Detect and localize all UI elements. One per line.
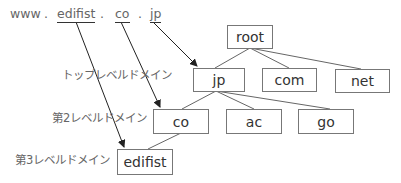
url-part-edifist: edifist <box>57 6 95 23</box>
label-third-level-domain: 第3レベルドメイン <box>15 153 110 167</box>
node-co: co <box>153 109 209 134</box>
url-part-www: www <box>10 6 41 22</box>
url-part-jp: jp <box>150 6 161 23</box>
url-dot: . <box>100 6 104 22</box>
label-second-level-domain: 第2レベルドメイン <box>52 111 147 125</box>
node-ac: ac <box>226 109 282 134</box>
node-edifist: edifist <box>117 149 173 175</box>
label-top-level-domain: トップレベルドメイン <box>62 68 172 82</box>
node-jp: jp <box>193 68 245 92</box>
url-dot: . <box>138 6 142 22</box>
node-com: com <box>262 68 317 92</box>
url-dot: . <box>44 6 48 22</box>
node-net: net <box>335 69 390 93</box>
url-part-co: co <box>115 6 130 23</box>
node-go: go <box>298 109 354 134</box>
node-root: root <box>227 25 273 49</box>
